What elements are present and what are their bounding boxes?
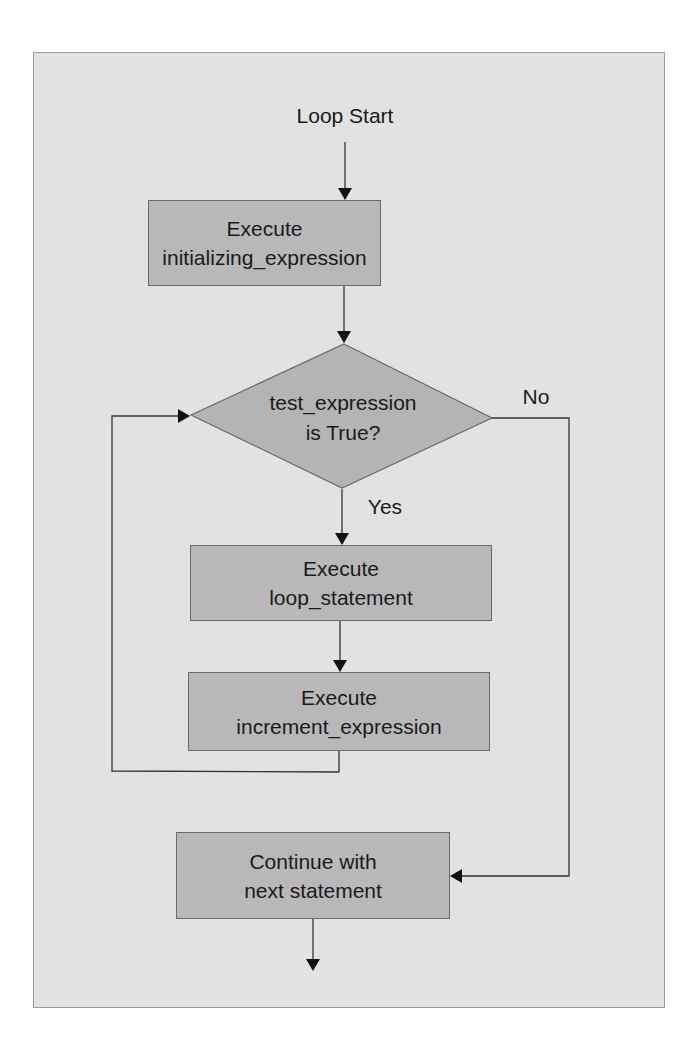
continue-node: Continue with next statement — [176, 832, 450, 919]
increment-node-line1: Execute — [301, 683, 377, 712]
end-node-line1: Continue with — [249, 847, 376, 876]
yes-label: Yes — [360, 493, 410, 521]
init-node-line2: initializing_expression — [162, 243, 366, 272]
arrow-no-to-end — [451, 418, 569, 876]
increment-node: Execute increment_expression — [188, 672, 490, 751]
init-node-line1: Execute — [227, 214, 303, 243]
end-node-line2: next statement — [244, 876, 382, 905]
decision-line2: is True? — [230, 418, 456, 448]
decision-line1: test_expression — [230, 388, 456, 418]
loop-statement-node: Execute loop_statement — [190, 545, 492, 621]
loop-start-label: Loop Start — [285, 102, 405, 130]
body-node-line1: Execute — [303, 554, 379, 583]
decision-text: test_expression is True? — [230, 388, 456, 448]
body-node-line2: loop_statement — [269, 583, 413, 612]
increment-node-line2: increment_expression — [236, 712, 441, 741]
no-label: No — [516, 383, 556, 411]
init-node: Execute initializing_expression — [148, 200, 381, 286]
